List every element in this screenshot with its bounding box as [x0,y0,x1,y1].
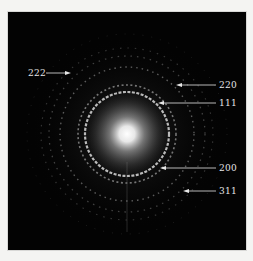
diffraction-pattern-image: 222 220 111 200 311 [8,12,246,250]
diffraction-figure: 222 220 111 200 311 [0,0,253,261]
label-220: 220 [219,80,237,90]
label-200: 200 [219,163,237,173]
label-311: 311 [219,186,237,196]
diffraction-rings [8,12,246,250]
label-111: 111 [219,98,237,108]
label-222: 222 [28,68,46,78]
